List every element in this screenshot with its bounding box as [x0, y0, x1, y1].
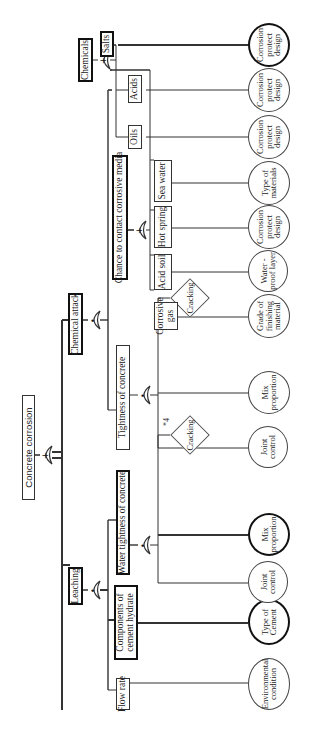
- event-hot-spring: Hot spring: [154, 206, 172, 248]
- top-event-concrete-corrosion: Concrete corrosion: [22, 395, 35, 500]
- basic-event-corrosion-protect-oils: Corrosion protect design: [248, 115, 290, 159]
- event-acid-soil: Acid soil: [154, 254, 172, 290]
- cracking-label: Cracking: [170, 415, 210, 455]
- basic-event-mix-proportion-2: Mix proportion: [248, 371, 290, 414]
- basic-event-water-proof-layer: Water -proof layer: [248, 250, 288, 292]
- event-corrosive-gas: Corrosive gas: [154, 302, 178, 330]
- event-leaching: Leaching: [68, 567, 83, 605]
- event-sea-water: Sea water: [154, 160, 172, 202]
- basic-event-corrosion-protect-acids: Corrosion protect design: [248, 68, 290, 112]
- basic-event-joint-control-1: Joint control: [248, 561, 288, 603]
- basic-event-type-of-cement: Type of Cement: [248, 599, 290, 645]
- event-acids: Acids: [128, 75, 142, 103]
- basic-event-joint-control-2: Joint control: [248, 426, 288, 468]
- event-water-tightness: Water tightness of concrete: [116, 470, 130, 575]
- undeveloped-event-cracking-1: Cracking: [170, 415, 210, 455]
- event-salts: Salts: [100, 31, 114, 57]
- or-gate-chemicals: +: [99, 57, 108, 64]
- basic-event-corrosion-protect-salts: Corrosion protect design: [248, 23, 290, 67]
- or-gate-top: +: [41, 452, 50, 459]
- basic-event-grade-finishing-material: Grade of finishing material: [248, 294, 290, 338]
- event-chance-contact-corrosive-media: Chance to contact corrosive media: [112, 155, 128, 280]
- cracking-note-1: *4: [162, 418, 171, 426]
- event-components-cement-hydrate: Components of cement hydrate: [114, 585, 138, 660]
- basic-event-corrosion-protect-hot-spring: Corrosion protect design: [248, 205, 290, 249]
- fault-tree-diagram: + • • • • + + Concrete corrosion Leachin…: [0, 0, 309, 750]
- event-chemical-attack: Chemical attack: [68, 293, 83, 355]
- event-flow-rate: Flow rate: [116, 678, 130, 710]
- and-gate-leaching: •: [89, 588, 98, 593]
- basic-event-type-of-materials: Type of materials: [248, 161, 290, 205]
- event-oils: Oils: [128, 125, 142, 149]
- basic-event-environmental-condition: Environmental condition: [248, 658, 290, 710]
- event-tightness-of-concrete: Tightness of concrete: [116, 345, 130, 450]
- and-gate-tightness: •: [139, 393, 148, 398]
- or-gate-chance: +: [135, 227, 144, 234]
- and-gate-water-tightness: •: [139, 543, 148, 548]
- event-chemicals: Chemicals: [78, 38, 93, 82]
- and-gate-chemical: •: [89, 318, 98, 323]
- basic-event-mix-proportion-1: Mix proportion: [248, 513, 290, 556]
